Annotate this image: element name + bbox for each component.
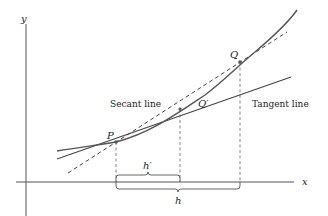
x-axis-label: x <box>302 176 308 187</box>
tangent-line-label: Tangent line <box>252 99 309 109</box>
function-curve <box>57 10 297 151</box>
point-p-label: P <box>106 130 114 141</box>
h-label: h <box>175 195 181 206</box>
point-p <box>114 140 118 144</box>
point-qprime-label: Q′ <box>198 98 209 109</box>
brace-h <box>116 182 240 192</box>
y-axis-label: y <box>20 13 27 24</box>
point-qprime <box>178 107 181 110</box>
h-prime-label: h′ <box>143 160 152 171</box>
point-q-label: Q <box>230 49 238 60</box>
secant-tangent-diagram: y x P Q′ Q Secant line Tangent line h′ h <box>0 0 328 216</box>
point-q <box>238 60 242 64</box>
tangent-line <box>57 77 291 159</box>
secant-line-label: Secant line <box>110 99 161 109</box>
brace-h-prime <box>116 172 180 182</box>
